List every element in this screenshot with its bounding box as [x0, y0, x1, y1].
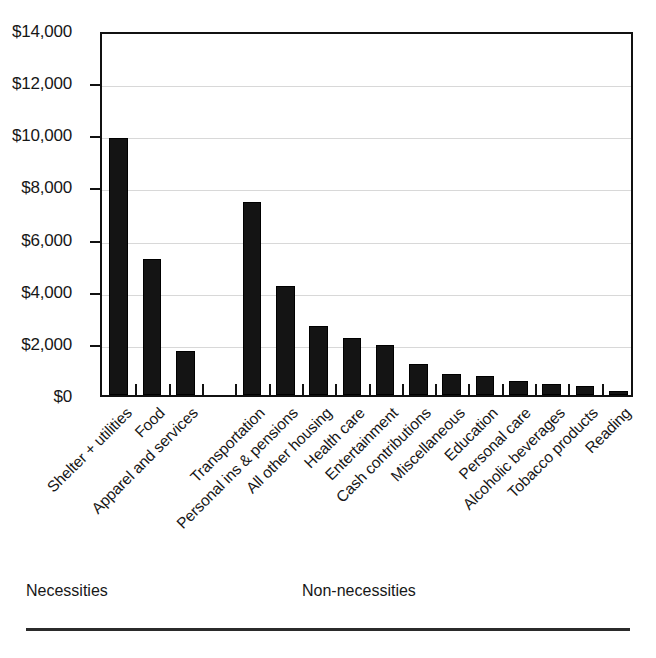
y-axis-tick-label: $12,000: [12, 74, 72, 94]
x-axis-tick-mark: [169, 384, 171, 395]
x-axis-labels: Shelter + utilitiesFoodApparel and servi…: [0, 398, 656, 568]
x-axis-tick-mark: [302, 384, 304, 395]
x-axis-tick-mark: [202, 384, 204, 395]
bar[interactable]: [176, 351, 195, 395]
group-annotations: Necessities Non-necessities: [0, 582, 656, 612]
bar[interactable]: [243, 202, 262, 395]
bar[interactable]: [509, 381, 528, 395]
y-axis-tick-label: $14,000: [12, 22, 72, 42]
plot-area: [100, 32, 633, 397]
y-axis-tick-label: $4,000: [21, 283, 72, 303]
y-axis-tick-label: $10,000: [12, 126, 72, 146]
x-axis-tick-mark: [269, 384, 271, 395]
group-label-necessities: Necessities: [26, 582, 108, 600]
x-axis-tick-mark: [235, 384, 237, 395]
bar[interactable]: [376, 345, 395, 395]
bar[interactable]: [442, 374, 461, 395]
x-axis-tick-mark: [135, 384, 137, 395]
x-axis-tick-mark: [369, 384, 371, 395]
bars-layer: [102, 34, 631, 395]
bar[interactable]: [143, 259, 162, 395]
y-axis-tick-label: $2,000: [21, 335, 72, 355]
x-axis-tick-mark: [435, 384, 437, 395]
y-axis-tick-label: $6,000: [21, 231, 72, 251]
bar[interactable]: [309, 326, 328, 395]
x-axis-tick-mark: [335, 384, 337, 395]
bar[interactable]: [609, 391, 628, 395]
x-axis-tick-mark: [402, 384, 404, 395]
bar[interactable]: [343, 338, 362, 395]
bar[interactable]: [576, 386, 595, 395]
bar[interactable]: [542, 384, 561, 395]
x-axis-tick-mark: [502, 384, 504, 395]
bottom-divider: [26, 628, 630, 631]
x-axis-tick-mark: [468, 384, 470, 395]
bar[interactable]: [109, 138, 128, 395]
bar[interactable]: [476, 376, 495, 395]
bar[interactable]: [409, 364, 428, 395]
x-axis-tick-mark: [602, 384, 604, 395]
bar[interactable]: [276, 286, 295, 396]
group-label-non-necessities: Non-necessities: [302, 582, 416, 600]
chart-page: $0$2,000$4,000$6,000$8,000$10,000$12,000…: [0, 0, 656, 658]
x-axis-tick-mark: [568, 384, 570, 395]
x-axis-tick-mark: [535, 384, 537, 395]
y-axis-tick-label: $8,000: [21, 178, 72, 198]
y-axis: $0$2,000$4,000$6,000$8,000$10,000$12,000…: [0, 0, 86, 420]
